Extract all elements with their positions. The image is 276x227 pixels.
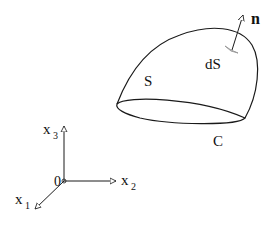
origin-label: 0 [54, 174, 61, 189]
normal-label: n [251, 10, 260, 27]
surface-label: S [144, 73, 152, 89]
svg-text:x: x [121, 172, 129, 188]
svg-text:x: x [15, 191, 23, 207]
boundary-curve-c [117, 99, 245, 123]
surface-diagram: n dS S C 0 x 3 x 2 x 1 [0, 0, 276, 227]
svg-text:3: 3 [53, 130, 58, 141]
svg-text:1: 1 [25, 200, 30, 211]
boundary-label: C [213, 133, 223, 149]
normal-vector-arrow [232, 15, 243, 50]
x1-label: x 1 [15, 191, 30, 211]
x2-label: x 2 [121, 172, 136, 192]
x3-label: x 3 [43, 121, 58, 141]
svg-text:x: x [43, 121, 51, 137]
surface-s-outline [117, 28, 258, 118]
svg-text:2: 2 [131, 181, 136, 192]
element-label: dS [205, 56, 221, 72]
surface-element-ds [225, 46, 238, 53]
